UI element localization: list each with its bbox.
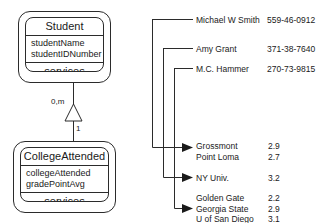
student-instance-id: 371-38-7640 — [267, 44, 315, 54]
college-instance-name: U of San Diego — [196, 214, 254, 223]
association-line-upper — [73, 83, 74, 105]
college-instance-gpa: 2.9 — [268, 204, 280, 214]
association-line-lower — [73, 120, 74, 141]
link-michael-smith-spine — [153, 20, 183, 148]
college-attended-operations-compartment: services — [21, 193, 108, 202]
link-amy-grant-spine — [164, 49, 183, 178]
student-class-name: Student — [26, 18, 103, 36]
college-attended-attribute: gradePointAvg — [26, 179, 108, 190]
college-instance-gpa: 3.2 — [268, 173, 280, 183]
association-source-multiplicity: 0,m — [51, 97, 64, 106]
college-instance-name: Golden Gate — [196, 193, 244, 203]
student-instance-name: M.C. Hammer — [196, 64, 249, 74]
college-instance-name: NY Univ. — [196, 173, 229, 183]
college-attended-class-name: CollegeAttended — [21, 148, 108, 166]
student-instance-id: 559-46-0912 — [267, 15, 315, 25]
student-instance-id: 270-73-9815 — [267, 64, 315, 74]
college-instance-gpa: 2.9 — [268, 141, 280, 151]
uml-object-diagram: Student studentName studentIDNumber serv… — [0, 0, 330, 223]
student-attribute: studentName — [31, 38, 103, 49]
student-attribute: studentIDNumber — [31, 49, 103, 60]
college-instance-name: Georgia State — [196, 204, 248, 214]
arrowhead-to-ny-univ — [182, 173, 193, 182]
college-attended-attribute: collegeAttended — [26, 168, 108, 179]
arrowhead-to-georgia-state-group — [182, 204, 193, 213]
student-operations-compartment: services — [26, 63, 103, 72]
arrowhead-to-grossmont-point-loma — [182, 143, 193, 152]
student-instance-name: Michael W Smith — [196, 15, 260, 25]
generalization-triangle — [65, 104, 82, 121]
link-mc-hammer-spine — [175, 69, 183, 209]
association-target-multiplicity: 1 — [76, 124, 80, 133]
student-class-box[interactable]: Student studentName studentIDNumber serv… — [25, 17, 104, 72]
college-instance-name: Grossmont — [196, 141, 238, 151]
college-instance-gpa: 3.1 — [268, 214, 280, 223]
college-instance-gpa: 2.7 — [268, 152, 280, 162]
college-attended-class-box[interactable]: CollegeAttended collegeAttended gradePoi… — [20, 147, 109, 202]
college-instance-gpa: 2.2 — [268, 193, 280, 203]
college-instance-name: Point Loma — [196, 152, 239, 162]
student-instance-name: Amy Grant — [196, 44, 237, 54]
college-attended-attribute-compartment: collegeAttended gradePointAvg — [21, 166, 108, 193]
student-attribute-compartment: studentName studentIDNumber — [26, 36, 103, 63]
